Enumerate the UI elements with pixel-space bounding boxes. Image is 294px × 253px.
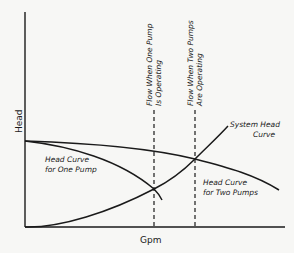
two-pumps-flow-label: Flow When Two Pumps Are Operating bbox=[186, 20, 204, 107]
y-axis-label: Head bbox=[14, 109, 24, 133]
svg-text:Flow When One Pump: Flow When One Pump bbox=[145, 23, 154, 106]
svg-text:Curve: Curve bbox=[253, 130, 276, 139]
system-curve-label: System Head Curve bbox=[230, 120, 280, 139]
x-axis-label: Gpm bbox=[140, 235, 161, 245]
system-head-curve bbox=[25, 126, 228, 227]
svg-text:Head Curve: Head Curve bbox=[203, 178, 248, 187]
svg-text:System Head: System Head bbox=[230, 120, 280, 129]
one-pump-curve-label: Head Curve for One Pump bbox=[45, 155, 97, 174]
two-pumps-curve-label: Head Curve for Two Pumps bbox=[203, 178, 258, 197]
pump-curve-diagram: Head Gpm Flow When One Pump Is Operating… bbox=[0, 0, 294, 253]
svg-text:Flow When Two Pumps: Flow When Two Pumps bbox=[186, 20, 195, 106]
svg-text:Are Operating: Are Operating bbox=[195, 53, 204, 107]
svg-text:Is Operating: Is Operating bbox=[154, 60, 163, 106]
svg-text:for Two Pumps: for Two Pumps bbox=[203, 188, 258, 197]
one-pump-flow-label: Flow When One Pump Is Operating bbox=[145, 23, 163, 106]
svg-text:Head Curve: Head Curve bbox=[45, 155, 90, 164]
svg-text:for One Pump: for One Pump bbox=[45, 165, 97, 174]
